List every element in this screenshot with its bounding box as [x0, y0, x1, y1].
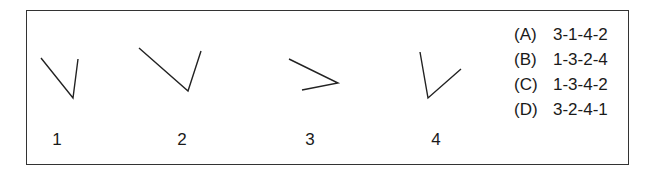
option-letter: (B)	[514, 49, 553, 74]
option-letter: (D)	[514, 99, 553, 124]
option-value: 3-1-4-2	[553, 24, 608, 49]
option-a[interactable]: (A) 3-1-4-2	[514, 24, 608, 49]
option-value: 3-2-4-1	[553, 99, 608, 124]
figure-label-4: 4	[421, 130, 451, 150]
figure-label-3: 3	[295, 130, 325, 150]
angle-figure-3	[289, 59, 338, 90]
option-value: 1-3-4-2	[553, 74, 608, 99]
figure-label-2: 2	[167, 130, 197, 150]
figure-label-1: 1	[42, 130, 72, 150]
angle-figure-2	[139, 48, 201, 91]
option-d[interactable]: (D) 3-2-4-1	[514, 99, 608, 124]
answer-options: (A) 3-1-4-2 (B) 1-3-2-4 (C) 1-3-4-2 (D) …	[514, 24, 608, 124]
option-value: 1-3-2-4	[553, 49, 608, 74]
angle-figure-1	[41, 58, 78, 98]
angle-figure-4	[420, 52, 461, 98]
option-c[interactable]: (C) 1-3-4-2	[514, 74, 608, 99]
option-letter: (C)	[514, 74, 553, 99]
option-letter: (A)	[514, 24, 553, 49]
option-b[interactable]: (B) 1-3-2-4	[514, 49, 608, 74]
